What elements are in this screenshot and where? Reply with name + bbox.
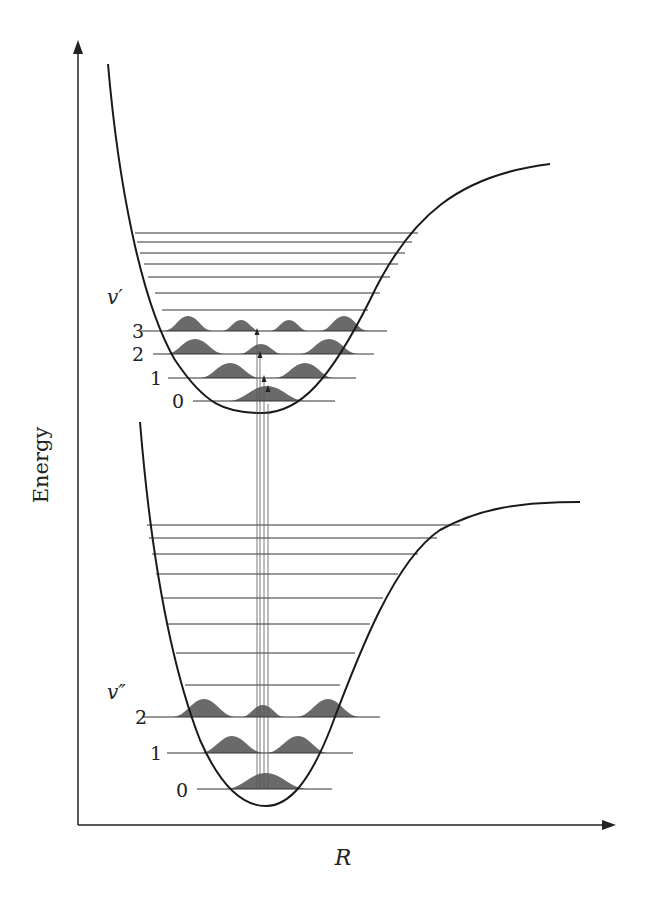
arrow-up-icon — [73, 40, 83, 54]
level-label-v1-lower: 1 — [150, 742, 162, 764]
wavefunction-v2-lower — [172, 699, 360, 717]
upper-state-label: v′ — [107, 285, 123, 309]
level-label-v2-lower: 2 — [135, 706, 147, 728]
level-label-v0-lower: 0 — [176, 779, 188, 801]
wavefunction-v2-upper — [166, 339, 358, 354]
lower-potential-curve — [140, 422, 580, 806]
level-label-v3-upper: 3 — [132, 320, 144, 342]
wavefunction-v1-upper — [200, 363, 333, 378]
level-label-v2-upper: 2 — [132, 343, 144, 365]
energy-axis-label: Energy — [29, 427, 53, 504]
lower-potential: v″ 2 1 0 — [107, 422, 580, 806]
lower-state-label: v″ — [107, 680, 126, 704]
level-label-v0-upper: 0 — [172, 390, 184, 412]
upper-high-levels — [135, 233, 418, 310]
level-label-v1-upper: 1 — [150, 367, 162, 389]
franck-condon-diagram: Energy R v′ 3 2 1 0 — [0, 0, 645, 897]
lower-high-levels — [147, 525, 460, 685]
upper-potential: v′ 3 2 1 0 — [107, 64, 550, 413]
r-axis-label: R — [334, 845, 352, 870]
wavefunction-v3-upper — [163, 316, 368, 331]
arrow-right-icon — [602, 820, 616, 830]
wavefunction-v0-lower — [225, 773, 308, 789]
upper-potential-curve — [108, 64, 550, 413]
